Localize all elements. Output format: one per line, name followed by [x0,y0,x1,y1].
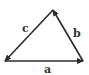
vector-c-label: c [22,22,29,35]
vector-a-label: a [44,63,51,75]
vector-triangle-diagram: c b a [0,0,89,75]
vector-b-label: b [73,27,81,40]
vector-c-arrow [5,10,53,61]
